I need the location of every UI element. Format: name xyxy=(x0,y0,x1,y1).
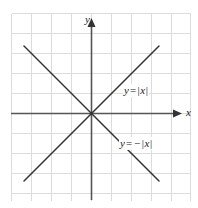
curve-abs-left-branch xyxy=(24,46,92,114)
curve-label-y-equals-neg-abs-x: y=−|x| xyxy=(119,137,154,150)
curve-label-equals: = xyxy=(129,84,137,96)
coordinate-plane-svg xyxy=(0,0,198,208)
grid-lines xyxy=(12,14,191,201)
curve-label-y-equals-abs-x: y=|x| xyxy=(123,84,149,97)
absolute-value-graph-figure: x y y=|x| y=−|x| xyxy=(0,0,198,208)
curve-label-bar-close: | xyxy=(145,84,148,96)
x-axis-label: x xyxy=(186,106,191,118)
curve-neg-abs-left-branch xyxy=(24,114,92,182)
curve-label-equals: = xyxy=(125,137,133,149)
curve-label-bar-close: | xyxy=(149,137,152,149)
y-axis-label: y xyxy=(85,13,90,25)
curve-abs-right-branch xyxy=(92,46,160,114)
x-axis-arrowhead xyxy=(173,110,182,118)
